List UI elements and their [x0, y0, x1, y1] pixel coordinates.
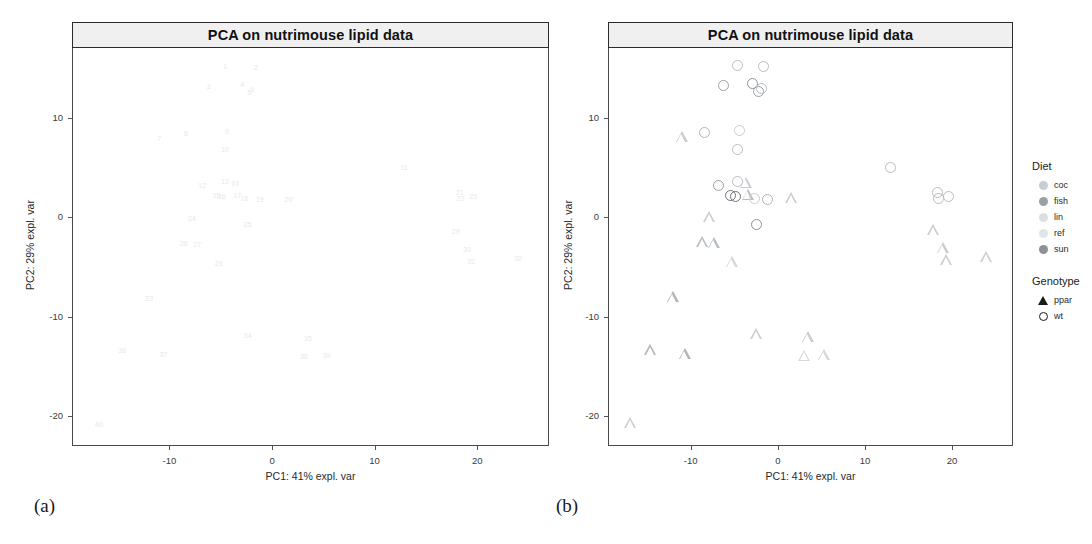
data-point-label: 1	[223, 62, 227, 69]
triangle-inner-cutout	[668, 294, 676, 302]
panel-a-sublabel: (a)	[34, 495, 55, 517]
data-point-label: 10	[221, 146, 229, 153]
x-tick-label: 20	[934, 455, 970, 466]
triangle-inner-cutout	[752, 331, 760, 339]
data-point-label: 9	[225, 127, 229, 134]
legend-block-diet: Dietcocfishlinrefsun	[1032, 160, 1092, 257]
legend-swatch-circle-icon	[1039, 213, 1048, 222]
y-tick-label: 0	[32, 211, 63, 222]
data-point-label: 12	[198, 182, 206, 189]
data-point-label: 23	[469, 193, 477, 200]
data-point-label: 37	[159, 351, 167, 358]
legend-key-genotype	[1032, 312, 1054, 321]
triangle-inner-cutout	[727, 259, 735, 267]
data-point-wt	[713, 180, 724, 191]
data-point-label: 20	[285, 196, 293, 203]
data-point-ppar	[940, 254, 952, 265]
data-point-label: 7	[157, 134, 161, 141]
legend-label: ppar	[1054, 295, 1072, 305]
legend-label: fish	[1054, 196, 1068, 206]
data-point-wt	[699, 127, 710, 138]
legend-item-sun[interactable]: sun	[1032, 241, 1092, 257]
data-point-ppar	[703, 211, 715, 222]
data-point-label: 34	[244, 331, 252, 338]
panel-b-y-axis-title: PC2: 29% expl. var	[562, 195, 574, 295]
legend-label: wt	[1054, 311, 1063, 321]
data-point-wt	[734, 125, 745, 136]
x-tick-label: 20	[459, 455, 495, 466]
x-tick	[865, 446, 866, 450]
data-point-label: 27	[193, 241, 201, 248]
data-point-label: 16	[218, 193, 226, 200]
panel-b: PCA on nutrimouse lipid data -1001020100…	[546, 0, 1092, 544]
triangle-inner-cutout	[803, 334, 811, 342]
y-tick	[604, 118, 608, 119]
data-point-label: 6	[251, 85, 255, 92]
legend-key-diet	[1032, 213, 1054, 222]
legend-label: lin	[1054, 212, 1063, 222]
y-tick	[68, 217, 72, 218]
data-point-wt	[732, 144, 743, 155]
legend-key-diet	[1032, 181, 1054, 190]
x-tick	[691, 446, 692, 450]
data-point-label: 30	[463, 245, 471, 252]
panel-a: PCA on nutrimouse lipid data -1001020100…	[0, 0, 546, 544]
y-tick	[604, 317, 608, 318]
triangle-inner-cutout	[741, 179, 749, 187]
legend-key-diet	[1032, 229, 1054, 238]
data-point-label: 8	[184, 129, 188, 136]
y-tick	[68, 317, 72, 318]
legend-item-lin[interactable]: lin	[1032, 209, 1092, 225]
legend-triangle-icon	[1038, 296, 1048, 305]
triangle-inner-cutout	[709, 240, 717, 248]
data-point-wt	[943, 191, 954, 202]
legend-swatch-circle-icon	[1039, 181, 1048, 190]
figure-root: PCA on nutrimouse lipid data -1001020100…	[0, 0, 1092, 544]
data-point-ppar	[624, 417, 636, 428]
data-point-label: 26	[180, 240, 188, 247]
x-tick	[952, 446, 953, 450]
data-point-ppar	[679, 348, 691, 359]
legend-item-ref[interactable]: ref	[1032, 225, 1092, 241]
x-tick	[375, 446, 376, 450]
data-point-ppar	[802, 331, 814, 342]
triangle-inner-cutout	[800, 352, 808, 360]
legend-item-wt[interactable]: wt	[1032, 308, 1092, 324]
data-point-ppar	[726, 256, 738, 267]
legend-item-ppar[interactable]: ppar	[1032, 292, 1092, 308]
legend-label: ref	[1054, 228, 1065, 238]
data-point-ppar	[818, 349, 830, 360]
data-point-label: 39	[322, 352, 330, 359]
legend-item-coc[interactable]: coc	[1032, 177, 1092, 193]
y-tick-label: -20	[568, 410, 599, 421]
data-point-wt	[732, 60, 743, 71]
y-tick	[604, 416, 608, 417]
y-tick-label: -10	[568, 311, 599, 322]
data-point-label: 29	[215, 259, 223, 266]
legend-title: Diet	[1032, 160, 1092, 172]
data-point-ppar	[785, 192, 797, 203]
x-tick-label: 10	[847, 455, 883, 466]
data-point-label: 4	[240, 80, 244, 87]
x-tick-label: 0	[760, 455, 796, 466]
data-point-ppar	[696, 236, 708, 247]
y-tick	[68, 416, 72, 417]
legend-block-genotype: Genotypepparwt	[1032, 275, 1092, 324]
triangle-inner-cutout	[819, 352, 827, 360]
data-point-label: 36	[118, 347, 126, 354]
data-point-wt	[885, 162, 896, 173]
legend-item-fish[interactable]: fish	[1032, 193, 1092, 209]
data-point-label: 18	[240, 195, 248, 202]
y-tick-label: 10	[568, 112, 599, 123]
triangle-inner-cutout	[938, 245, 946, 253]
data-point-label: 19	[256, 196, 264, 203]
data-point-ppar	[644, 344, 656, 355]
data-point-ppar	[798, 350, 810, 361]
y-tick-label: -10	[32, 311, 63, 322]
triangle-inner-cutout	[626, 420, 634, 428]
data-point-label: 3	[206, 82, 210, 89]
x-tick-label: -10	[151, 455, 187, 466]
triangle-inner-cutout	[680, 351, 688, 359]
legend-key-genotype	[1032, 296, 1054, 305]
data-point-wt	[749, 193, 760, 204]
